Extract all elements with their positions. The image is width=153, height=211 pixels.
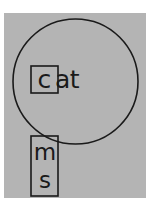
diagram-shapes: [0, 0, 153, 211]
figure-canvas: cat m s: [0, 0, 153, 211]
boxed-letter-c-outline: [31, 66, 58, 93]
vertical-rectangle-outline: [31, 136, 58, 196]
